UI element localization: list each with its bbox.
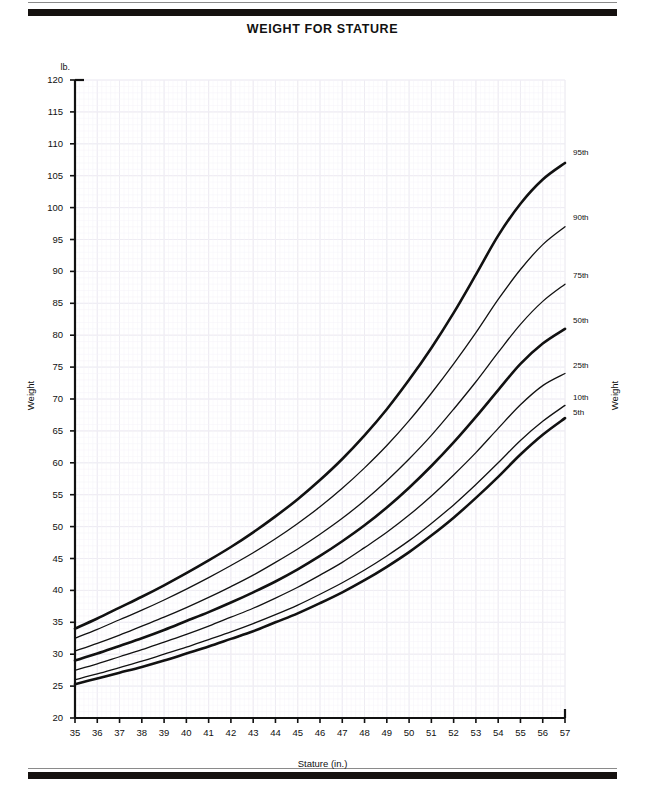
- x-tick-label: 57: [553, 727, 577, 738]
- y-tick-label: 105: [33, 170, 63, 181]
- y-axis-title-right: Weight: [609, 374, 620, 418]
- x-tick-label: 38: [130, 727, 154, 738]
- x-tick-label: 39: [152, 727, 176, 738]
- percentile-label-25th: 25th: [573, 361, 589, 370]
- x-tick-label: 43: [241, 727, 265, 738]
- y-tick-label: 115: [33, 106, 63, 117]
- y-axis-title-left: Weight: [25, 374, 36, 418]
- percentile-label-75th: 75th: [573, 271, 589, 280]
- y-tick-label: 95: [33, 234, 63, 245]
- x-tick-label: 40: [174, 727, 198, 738]
- x-tick-label: 45: [286, 727, 310, 738]
- percentile-label-90th: 90th: [573, 213, 589, 222]
- x-axis-title: Stature (in.): [0, 758, 645, 769]
- x-tick-label: 37: [108, 727, 132, 738]
- y-tick-label: 55: [33, 489, 63, 500]
- chart-tickmarks: [70, 80, 565, 723]
- y-tick-label: 85: [33, 297, 63, 308]
- y-tick-label: 20: [33, 712, 63, 723]
- percentile-label-50th: 50th: [573, 316, 589, 325]
- y-tick-label: 60: [33, 457, 63, 468]
- x-tick-label: 48: [353, 727, 377, 738]
- x-tick-label: 53: [464, 727, 488, 738]
- y-tick-label: 100: [33, 202, 63, 213]
- y-tick-label: 25: [33, 680, 63, 691]
- x-tick-label: 47: [330, 727, 354, 738]
- chart-canvas: [0, 0, 645, 785]
- y-tick-label: 70: [33, 393, 63, 404]
- x-tick-label: 50: [397, 727, 421, 738]
- y-axis-unit-label: lb.: [40, 62, 70, 72]
- x-tick-label: 44: [263, 727, 287, 738]
- y-tick-label: 40: [33, 584, 63, 595]
- percentile-label-5th: 5th: [573, 408, 584, 417]
- x-tick-label: 46: [308, 727, 332, 738]
- y-tick-label: 45: [33, 553, 63, 564]
- x-tick-label: 42: [219, 727, 243, 738]
- x-tick-label: 35: [63, 727, 87, 738]
- y-tick-label: 50: [33, 521, 63, 532]
- y-tick-label: 90: [33, 265, 63, 276]
- x-tick-label: 49: [375, 727, 399, 738]
- y-tick-label: 30: [33, 648, 63, 659]
- x-tick-label: 41: [197, 727, 221, 738]
- x-tick-label: 51: [419, 727, 443, 738]
- x-tick-label: 55: [508, 727, 532, 738]
- percentile-label-10th: 10th: [573, 393, 589, 402]
- x-tick-label: 56: [531, 727, 555, 738]
- y-tick-label: 120: [33, 74, 63, 85]
- x-tick-label: 54: [486, 727, 510, 738]
- weight-for-stature-chart: lb. 202530354045505560657075808590951001…: [0, 0, 645, 785]
- y-tick-label: 65: [33, 425, 63, 436]
- y-tick-label: 35: [33, 616, 63, 627]
- x-tick-label: 52: [442, 727, 466, 738]
- y-tick-label: 80: [33, 329, 63, 340]
- y-tick-label: 75: [33, 361, 63, 372]
- percentile-label-95th: 95th: [573, 148, 589, 157]
- y-tick-label: 110: [33, 138, 63, 149]
- x-tick-label: 36: [85, 727, 109, 738]
